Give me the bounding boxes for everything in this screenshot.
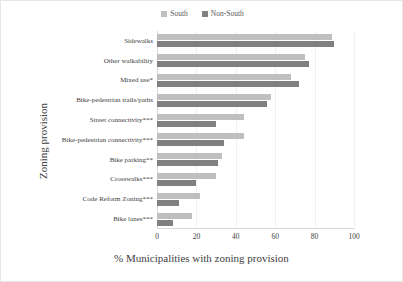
bar-non-south bbox=[157, 61, 309, 67]
bar-group: Bike parking** bbox=[157, 150, 354, 170]
x-tick-label: 20 bbox=[193, 233, 201, 241]
y-tick-label: Other walkability bbox=[104, 57, 153, 64]
bar-group: Bike lanes*** bbox=[157, 209, 354, 229]
y-tick-label: Mixed use* bbox=[120, 77, 153, 84]
bar-south bbox=[157, 34, 332, 40]
bar-south bbox=[157, 133, 244, 139]
y-tick-label: Bike parking** bbox=[110, 156, 153, 163]
bar-south bbox=[157, 74, 291, 80]
bar-group: Crosswalks*** bbox=[157, 170, 354, 190]
x-axis-title: % Municipalities with zoning provision bbox=[1, 252, 402, 264]
x-tick-label: 80 bbox=[311, 233, 319, 241]
x-tick-label: 40 bbox=[232, 233, 240, 241]
bar-non-south bbox=[157, 140, 224, 146]
bar-south bbox=[157, 94, 271, 100]
y-tick-label: Bike-pedestrian connectivity*** bbox=[62, 136, 153, 143]
legend-label-non-south: Non-South bbox=[211, 10, 244, 18]
bar-group: Street connectivity*** bbox=[157, 110, 354, 130]
bar-group: Code Reform Zoning*** bbox=[157, 189, 354, 209]
bar-non-south bbox=[157, 200, 179, 206]
bar-group: Mixed use* bbox=[157, 71, 354, 91]
bar-non-south bbox=[157, 180, 196, 186]
y-tick-label: Bike lanes*** bbox=[113, 216, 153, 223]
y-axis-title: Zoning provision bbox=[37, 103, 49, 179]
gridline bbox=[354, 31, 355, 229]
bar-non-south bbox=[157, 101, 267, 107]
bar-non-south bbox=[157, 121, 216, 127]
bar-group: Other walkability bbox=[157, 51, 354, 71]
bar-groups: SidewalksOther walkabilityMixed use*Bike… bbox=[157, 31, 354, 229]
legend-item-non-south: Non-South bbox=[202, 10, 244, 18]
bar-non-south bbox=[157, 41, 334, 47]
bar-south bbox=[157, 114, 244, 120]
chart-figure: South Non-South SidewalksOther walkabili… bbox=[0, 0, 403, 282]
plot-area: SidewalksOther walkabilityMixed use*Bike… bbox=[157, 31, 354, 229]
bar-south bbox=[157, 193, 200, 199]
y-tick-label: Crosswalks*** bbox=[110, 176, 153, 183]
y-tick-label: Code Reform Zoning*** bbox=[83, 196, 153, 203]
bar-group: Bike-pedestrian trails/paths bbox=[157, 90, 354, 110]
y-tick-label: Bike-pedestrian trails/paths bbox=[76, 97, 153, 104]
x-tick-label: 0 bbox=[155, 233, 159, 241]
legend-item-south: South bbox=[161, 10, 188, 18]
legend-swatch-south-icon bbox=[161, 11, 167, 17]
bar-south bbox=[157, 153, 222, 159]
bar-south bbox=[157, 213, 192, 219]
legend-label-south: South bbox=[170, 10, 188, 18]
x-tick-label: 100 bbox=[348, 233, 359, 241]
bar-non-south bbox=[157, 220, 173, 226]
bar-non-south bbox=[157, 160, 218, 166]
chart-legend: South Non-South bbox=[1, 10, 403, 18]
x-tick-label: 60 bbox=[271, 233, 279, 241]
bar-group: Sidewalks bbox=[157, 31, 354, 51]
legend-swatch-non-south-icon bbox=[202, 11, 208, 17]
y-tick-label: Street connectivity*** bbox=[90, 117, 153, 124]
y-tick-label: Sidewalks bbox=[124, 37, 153, 44]
bar-south bbox=[157, 54, 305, 60]
bar-non-south bbox=[157, 81, 299, 87]
bar-group: Bike-pedestrian connectivity*** bbox=[157, 130, 354, 150]
bar-south bbox=[157, 173, 216, 179]
